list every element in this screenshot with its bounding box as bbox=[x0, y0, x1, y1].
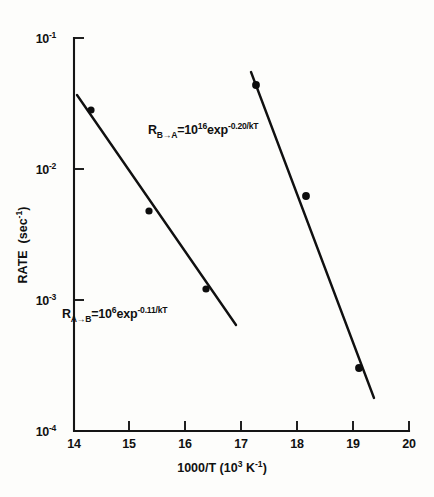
x-tick-label-18: 18 bbox=[290, 437, 304, 451]
y-tick-label-1e-4: 10-4 bbox=[36, 423, 57, 439]
x-tick-label-17: 17 bbox=[234, 437, 248, 451]
annotation-rate-b-to-a: RB→A=1016exp-0.20/kT bbox=[148, 121, 259, 140]
data-point bbox=[202, 285, 209, 292]
data-point bbox=[87, 106, 94, 113]
y-tick-label-1e-2: 10-2 bbox=[36, 161, 57, 177]
x-tick-label-19: 19 bbox=[346, 437, 360, 451]
arrhenius-plot-figure: 10-1 10-2 10-3 10-4 14 15 16 17 18 19 20… bbox=[0, 0, 434, 497]
y-axis-title: RATE (sec-1) bbox=[14, 207, 30, 284]
fit-line-b-to-a bbox=[251, 72, 374, 398]
x-tick-label-14: 14 bbox=[67, 437, 81, 451]
x-tick-label-15: 15 bbox=[122, 437, 136, 451]
data-point bbox=[302, 192, 310, 200]
x-tick-label-16: 16 bbox=[178, 437, 192, 451]
axis-frame bbox=[74, 38, 409, 431]
x-tick-label-20: 20 bbox=[402, 437, 416, 451]
plot-canvas: 10-1 10-2 10-3 10-4 14 15 16 17 18 19 20… bbox=[0, 0, 434, 497]
y-tick-label-1e-3: 10-3 bbox=[36, 292, 57, 308]
data-point bbox=[252, 81, 260, 89]
data-point bbox=[355, 364, 363, 372]
data-point bbox=[145, 207, 152, 214]
y-tick-label-1e-1: 10-1 bbox=[36, 30, 57, 46]
annotation-rate-a-to-b: RA→B=106exp-0.11/kT bbox=[62, 305, 168, 324]
x-axis-title: 1000/T (103 K-1) bbox=[177, 459, 267, 475]
